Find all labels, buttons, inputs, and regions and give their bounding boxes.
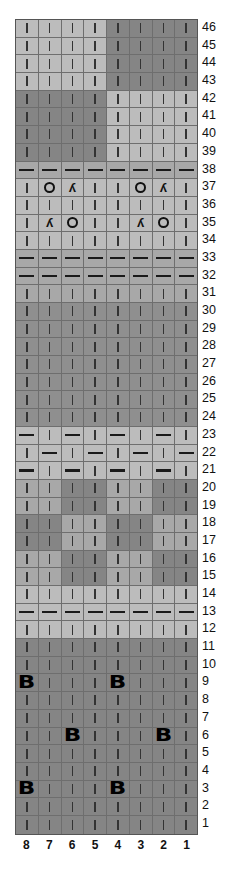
chart-cell	[84, 73, 107, 91]
chart-cell	[153, 498, 176, 516]
chart-cell	[107, 568, 130, 586]
chart-cell	[107, 533, 130, 551]
chart-row-36	[16, 197, 197, 215]
row-label: 1	[202, 815, 216, 833]
knit-stitch-icon	[163, 448, 165, 458]
chart-cell	[84, 568, 107, 586]
chart-cell	[175, 515, 197, 533]
knit-stitch-icon	[72, 554, 74, 564]
knit-stitch-icon	[163, 519, 165, 529]
purl-stitch-icon	[65, 469, 80, 471]
chart-cell	[84, 38, 107, 56]
knit-stitch-icon	[140, 695, 142, 705]
purl-stitch-icon	[88, 257, 103, 259]
bobble-icon: B	[155, 727, 173, 744]
purl-stitch-icon	[65, 257, 80, 259]
knit-stitch-icon	[185, 23, 187, 33]
knit-stitch-icon	[140, 802, 142, 812]
knit-stitch-icon	[140, 519, 142, 529]
knit-stitch-icon	[26, 660, 28, 670]
knit-stitch-icon	[163, 412, 165, 422]
knit-stitch-icon	[140, 430, 142, 440]
chart-cell	[39, 816, 62, 834]
knit-stitch-icon	[72, 713, 74, 723]
chart-cell	[153, 515, 176, 533]
chart-cell	[16, 215, 39, 233]
decrease-icon: ʎ	[46, 216, 53, 229]
knit-stitch-icon	[185, 642, 187, 652]
purl-stitch-icon	[19, 169, 34, 171]
chart-cell	[39, 798, 62, 816]
chart-cell	[130, 798, 153, 816]
knit-stitch-icon	[140, 395, 142, 405]
chart-cell	[107, 409, 130, 427]
chart-cell	[153, 374, 176, 392]
purl-stitch-icon	[156, 169, 171, 171]
chart-cell	[107, 38, 130, 56]
chart-cell	[130, 445, 153, 463]
knit-stitch-icon	[185, 200, 187, 210]
knit-stitch-icon	[163, 129, 165, 139]
chart-cell: ʎ	[130, 215, 153, 233]
row-label: 28	[202, 337, 216, 355]
chart-cell	[39, 763, 62, 781]
knit-stitch-icon	[140, 200, 142, 210]
knit-stitch-icon	[49, 820, 51, 830]
chart-cell	[62, 586, 85, 604]
purl-stitch-icon	[110, 469, 125, 471]
knit-stitch-icon	[26, 76, 28, 86]
knit-stitch-icon	[117, 572, 119, 582]
knit-stitch-icon	[140, 766, 142, 776]
knit-stitch-icon	[26, 59, 28, 69]
chart-cell	[62, 285, 85, 303]
row-label: 7	[202, 709, 216, 727]
chart-cell	[153, 321, 176, 339]
chart-cell	[16, 568, 39, 586]
knit-stitch-icon	[94, 342, 96, 352]
chart-cell	[175, 462, 197, 480]
row-label: 20	[202, 479, 216, 497]
purl-stitch-icon	[156, 434, 171, 436]
knit-stitch-icon	[117, 642, 119, 652]
chart-cell	[39, 657, 62, 675]
chart-cell	[84, 20, 107, 38]
chart-cell	[16, 692, 39, 710]
row-label: 34	[202, 231, 216, 249]
knit-stitch-icon	[26, 41, 28, 51]
knit-stitch-icon	[140, 129, 142, 139]
chart-cell	[16, 126, 39, 144]
chart-cell	[39, 250, 62, 268]
knit-stitch-icon	[94, 129, 96, 139]
knit-stitch-icon	[94, 642, 96, 652]
knit-stitch-icon	[94, 802, 96, 812]
chart-cell	[130, 108, 153, 126]
knit-stitch-icon	[185, 112, 187, 122]
knit-stitch-icon	[49, 766, 51, 776]
knit-stitch-icon	[72, 572, 74, 582]
knit-stitch-icon	[72, 324, 74, 334]
knit-stitch-icon	[185, 784, 187, 794]
chart-cell	[153, 586, 176, 604]
chart-cell	[175, 674, 197, 692]
chart-cell	[107, 728, 130, 746]
chart-cell	[62, 798, 85, 816]
knit-stitch-icon	[26, 695, 28, 705]
chart-cell	[130, 586, 153, 604]
chart-row-3: BB	[16, 781, 197, 799]
chart-cell	[84, 674, 107, 692]
knit-stitch-icon	[117, 660, 119, 670]
knit-stitch-icon	[185, 501, 187, 511]
chart-cell	[175, 144, 197, 162]
knit-stitch-icon	[94, 289, 96, 299]
knit-stitch-icon	[72, 642, 74, 652]
chart-cell	[39, 126, 62, 144]
yarn-over-icon	[44, 182, 55, 193]
knit-stitch-icon	[163, 23, 165, 33]
chart-cell	[62, 268, 85, 286]
chart-cell	[175, 480, 197, 498]
knit-stitch-icon	[140, 236, 142, 246]
knit-stitch-icon	[26, 324, 28, 334]
purl-stitch-icon	[133, 452, 148, 454]
chart-cell	[39, 604, 62, 622]
chart-cell	[107, 798, 130, 816]
